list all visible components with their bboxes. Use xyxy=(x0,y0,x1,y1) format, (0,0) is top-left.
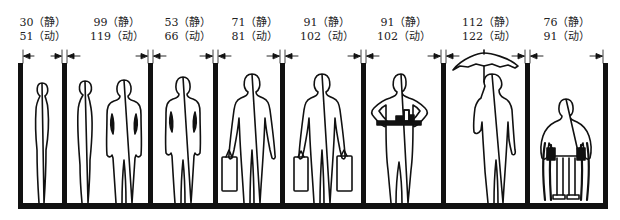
static-width: 91（静） xyxy=(300,16,354,30)
bag-icon xyxy=(337,156,352,191)
dynamic-width: 51（动） xyxy=(20,30,67,44)
compartment-label: 112（静） 122（动） xyxy=(462,16,516,44)
static-width: 53（静） xyxy=(165,16,212,30)
compartment-label: 53（静） 66（动） xyxy=(165,16,212,44)
compartment-label: 91（静） 102（动） xyxy=(377,16,431,44)
dynamic-width: 122（动） xyxy=(462,30,516,44)
compartment-label: 91（静） 102（动） xyxy=(300,16,354,44)
wall xyxy=(62,63,67,205)
static-width: 76（静） xyxy=(544,16,591,30)
wall xyxy=(525,63,530,205)
figure-side-view xyxy=(36,83,49,203)
dimension-arrows xyxy=(24,54,602,59)
static-width: 30（静） xyxy=(20,16,67,30)
figure-person-with-two-bags xyxy=(294,74,352,203)
compartment-label: 30（静） 51（动） xyxy=(20,16,67,44)
figure-front-view xyxy=(166,77,201,203)
figure-person-with-umbrella xyxy=(453,50,518,203)
static-width: 71（静） xyxy=(232,16,279,30)
dynamic-width: 66（动） xyxy=(165,30,212,44)
static-width: 91（静） xyxy=(377,16,431,30)
compartment-label: 76（静） 91（动） xyxy=(544,16,591,44)
wall xyxy=(441,63,446,205)
figure-person-with-tray xyxy=(372,74,428,203)
dynamic-width: 81（动） xyxy=(232,30,279,44)
static-width: 99（静） xyxy=(90,16,144,30)
figure-person-with-bag xyxy=(222,74,275,203)
wall xyxy=(18,63,23,205)
extension-lines xyxy=(23,50,603,63)
bag-icon xyxy=(222,157,237,191)
dynamic-width: 119（动） xyxy=(90,30,144,44)
figure-side-view xyxy=(78,81,92,203)
floor xyxy=(18,203,608,209)
wall xyxy=(148,63,153,205)
bag-icon xyxy=(294,157,308,191)
static-width: 112（静） xyxy=(462,16,516,30)
wall xyxy=(213,63,218,205)
compartment-label: 99（静） 119（动） xyxy=(90,16,144,44)
compartment-label: 71（静） 81（动） xyxy=(232,16,279,44)
wall xyxy=(280,63,285,205)
wall xyxy=(603,63,608,205)
dynamic-width: 91（动） xyxy=(544,30,591,44)
wall xyxy=(361,63,366,205)
dynamic-width: 102（动） xyxy=(300,30,354,44)
figure-front-view xyxy=(107,80,142,203)
figure-person-in-wheelchair xyxy=(541,99,591,200)
dynamic-width: 102（动） xyxy=(377,30,431,44)
umbrella-icon xyxy=(453,53,518,70)
